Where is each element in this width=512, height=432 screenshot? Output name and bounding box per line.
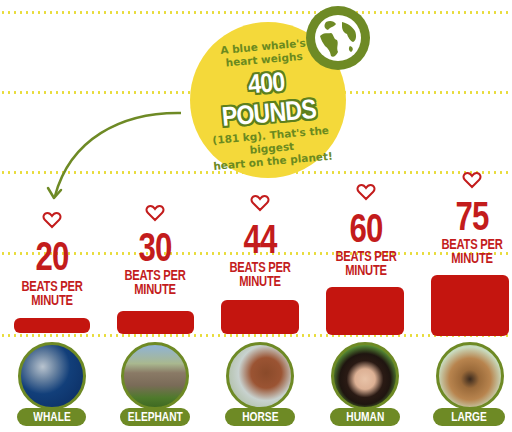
bar-human: [326, 287, 404, 335]
label-elephant: ELEPHANT: [120, 408, 190, 426]
large-dog-photo: [436, 342, 504, 410]
stat-human: 60 BEATS PER MINUTE: [316, 184, 416, 277]
label-human: HUMAN: [330, 408, 400, 426]
bpm-unit-line-1: BEATS PER: [432, 237, 512, 251]
bpm-unit-line-2: MINUTE: [432, 251, 512, 265]
elephant-photo: [121, 342, 189, 410]
bar-elephant: [117, 311, 194, 334]
whale-photo: [18, 342, 86, 410]
animal-name: HORSE: [242, 408, 278, 426]
heart-icon: [356, 184, 376, 201]
stat-horse: 44 BEATS PER MINUTE: [210, 195, 310, 288]
bpm-unit-line-1: BEATS PER: [220, 260, 300, 274]
animal-name: HUMAN: [346, 408, 384, 426]
animal-name: LARGE DOG: [438, 408, 499, 432]
bar-whale: [14, 318, 90, 333]
bpm-value: 60: [327, 209, 405, 247]
human-photo: [331, 342, 399, 410]
bpm-unit-line-2: MINUTE: [12, 293, 92, 307]
stat-elephant: 30 BEATS PER MINUTE: [105, 205, 205, 296]
bpm-value: 44: [221, 220, 299, 258]
heart-icon: [42, 212, 62, 229]
label-horse: HORSE: [225, 408, 295, 426]
bpm-value: 75: [433, 197, 511, 235]
animal-name: ELEPHANT: [128, 408, 183, 426]
stat-large-dog: 75 BEATS PER MINUTE: [422, 172, 512, 265]
heart-icon: [250, 195, 270, 212]
bar-horse: [221, 300, 299, 334]
bpm-unit-line-2: MINUTE: [326, 263, 406, 277]
heart-icon: [462, 172, 482, 189]
bpm-value: 30: [116, 228, 194, 266]
animal-name: WHALE: [33, 408, 70, 426]
label-whale: WHALE: [17, 408, 86, 426]
label-large-dog: LARGE DOG: [433, 408, 505, 426]
stat-whale: 20 BEATS PER MINUTE: [2, 212, 102, 307]
heart-icon: [145, 205, 165, 222]
bpm-unit-line-1: BEATS PER: [12, 279, 92, 293]
bpm-value: 20: [13, 237, 91, 275]
bpm-unit-line-1: BEATS PER: [115, 268, 195, 282]
horse-photo: [226, 342, 294, 410]
bpm-unit-line-2: MINUTE: [220, 274, 300, 288]
bar-large-dog: [431, 275, 509, 336]
bpm-unit-line-1: BEATS PER: [326, 249, 406, 263]
bpm-unit-line-2: MINUTE: [115, 282, 195, 296]
